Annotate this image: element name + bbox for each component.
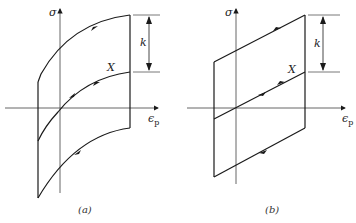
backstress-line-b [214, 72, 305, 119]
arrow-x-down-a [69, 93, 75, 98]
caption-b: (b) [265, 205, 279, 215]
sigma-label-b: σ [225, 7, 233, 18]
arrow-up-a [91, 26, 98, 31]
lower-line-b [214, 128, 305, 177]
caption-a: (a) [78, 205, 92, 215]
strain-label-a: ϵp [148, 113, 159, 127]
hysteresis-diagram [0, 0, 356, 223]
x-label-b: X [288, 64, 296, 75]
strain-label-b: ϵp [342, 113, 353, 127]
lower-curve-a [38, 128, 130, 198]
sigma-label-a: σ [49, 7, 57, 18]
panel-a [5, 9, 160, 198]
upper-line-b [214, 15, 305, 62]
k-label-a: k [140, 37, 147, 48]
x-label-a: X [107, 62, 115, 73]
panel-b [187, 9, 345, 184]
k-label-b: k [314, 38, 321, 49]
upper-curve-a [38, 15, 130, 82]
